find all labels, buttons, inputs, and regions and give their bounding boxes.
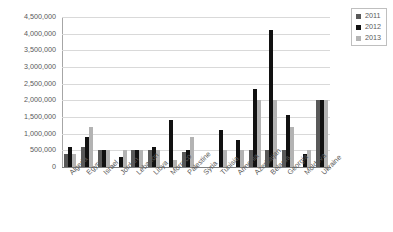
y-axis-tick-label: 4,000,000	[0, 30, 56, 37]
x-axis-tick-labels: AlgeriaEgyptIsraelJordanLebanonLibyaMorr…	[0, 167, 393, 232]
bar-group	[265, 17, 277, 167]
legend-swatch-icon	[356, 36, 361, 41]
bar-group	[316, 17, 328, 167]
bar-group	[215, 17, 227, 167]
y-axis-tick-label: 1,000,000	[0, 130, 56, 137]
legend-label: 2011	[365, 12, 380, 20]
bar-group	[282, 17, 294, 167]
bar-group	[249, 17, 261, 167]
y-axis-tick-label: 3,000,000	[0, 63, 56, 70]
chart-legend: 201120122013	[351, 8, 387, 46]
y-axis-tick-label: 4,500,000	[0, 13, 56, 20]
bar-group	[165, 17, 177, 167]
legend-item-2013: 2013	[356, 34, 381, 42]
bar-group	[299, 17, 311, 167]
y-axis-tick-label: 2,500,000	[0, 80, 56, 87]
bar-group	[64, 17, 76, 167]
bar-chart: 4,500,0004,000,0003,500,0003,000,0002,50…	[0, 0, 393, 232]
bar-group	[182, 17, 194, 167]
legend-item-2011: 2011	[356, 12, 381, 20]
bar-group	[115, 17, 127, 167]
bar-group	[131, 17, 143, 167]
y-axis-tick-label: 500,000	[0, 146, 56, 153]
plot-area	[62, 17, 330, 167]
bar-group	[98, 17, 110, 167]
legend-swatch-icon	[356, 25, 361, 30]
legend-label: 2012	[365, 23, 381, 31]
bar-group	[198, 17, 210, 167]
bar-group	[148, 17, 160, 167]
legend-item-2012: 2012	[356, 23, 381, 31]
y-axis-tick-label: 1,500,000	[0, 113, 56, 120]
y-axis-tick-label: 2,000,000	[0, 96, 56, 103]
bar-group	[232, 17, 244, 167]
legend-label: 2013	[365, 34, 381, 42]
bar-group	[81, 17, 93, 167]
legend-swatch-icon	[356, 14, 361, 19]
y-axis-tick-label: 3,500,000	[0, 46, 56, 53]
